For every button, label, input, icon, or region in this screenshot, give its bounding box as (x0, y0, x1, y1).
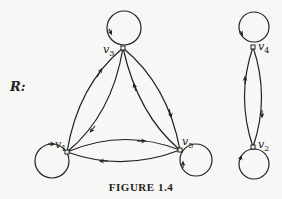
vertex-label-v3: v3 (103, 44, 114, 58)
loop-v4 (239, 12, 269, 42)
loop-v3 (107, 11, 141, 45)
edge-v2-v4 (245, 47, 254, 147)
edge-v5-v3 (123, 48, 180, 150)
vertex-label-v4: v4 (258, 41, 269, 55)
node-v3 (121, 46, 125, 50)
edge-v5-v1 (67, 150, 180, 162)
edge-v4-v2 (253, 47, 262, 147)
node-v4 (251, 45, 255, 49)
loop-v2 (239, 149, 269, 179)
vertex-label-v5: v5 (182, 136, 193, 150)
node-v2 (251, 145, 255, 149)
relation-label: R: (10, 79, 26, 94)
figure-caption: FIGURE 1.4 (0, 181, 282, 193)
figure-canvas: R: v3 v1 v5 v4 v2 FIGURE 1.4 (0, 0, 282, 199)
edge-v3-v1 (67, 48, 123, 152)
vertex-label-v1: v1 (55, 139, 66, 153)
edge-v3-v5 (123, 48, 180, 150)
vertex-label-v2: v2 (258, 139, 269, 153)
edge-v1-v3 (67, 48, 123, 152)
edge-v1-v5 (67, 139, 180, 152)
digraph (0, 0, 282, 199)
